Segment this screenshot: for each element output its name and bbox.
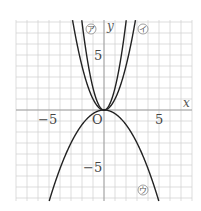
y-tick-neg5: −5 [83, 160, 102, 175]
svg-text:ウ: ウ [139, 186, 147, 195]
x-tick-5: 5 [155, 112, 163, 127]
parabola-graph: x y O −5 5 5 −5 ア イ ウ [0, 0, 201, 211]
y-tick-5: 5 [94, 48, 102, 63]
curve-c-label: ウ [138, 185, 148, 195]
x-tick-neg5: −5 [38, 112, 57, 127]
origin-label: O [92, 112, 103, 127]
x-axis-label: x [183, 96, 190, 110]
svg-text:イ: イ [139, 25, 147, 34]
y-axis-label: y [106, 19, 114, 33]
curve-a-label: ア [86, 24, 96, 34]
curve-b-label: イ [138, 24, 148, 34]
svg-text:ア: ア [87, 25, 95, 34]
